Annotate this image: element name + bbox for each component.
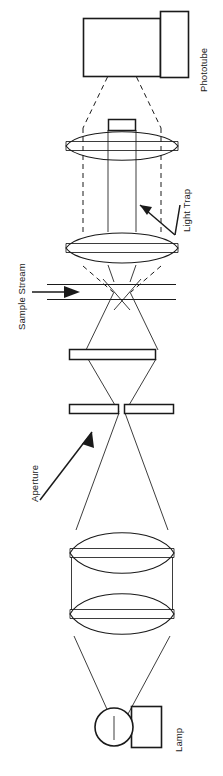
light-trap-annotation	[140, 205, 180, 235]
collection-cone	[83, 265, 161, 292]
condenser-lens-upper	[70, 533, 174, 574]
label-aperture: Aperture	[29, 465, 40, 502]
label-phototube: Phototube	[198, 48, 209, 92]
sample-stream-annotation	[32, 286, 80, 298]
light-trap-leader-tail	[175, 205, 180, 235]
aperture-bar-right	[125, 405, 174, 414]
lens-glass-cond-lower	[70, 594, 174, 635]
light-trap-block	[109, 120, 136, 131]
phototube-base	[161, 12, 189, 78]
aperture-stop	[70, 405, 174, 414]
illumination-beam	[86, 279, 158, 350]
label-lamp: Lamp	[173, 728, 184, 752]
optics-svg: Phototube Light Trap Sample Stream Apert…	[0, 0, 223, 776]
beam-to-condenser	[76, 413, 168, 530]
lens-glass-cond-upper	[70, 533, 174, 574]
field-stop	[70, 350, 156, 360]
label-sample-stream: Sample Stream	[16, 263, 27, 330]
collection-lens-lower	[66, 233, 178, 263]
field-stop-bar	[70, 350, 156, 360]
sample-stream-arrowhead	[64, 286, 80, 298]
lens-glass-lower	[66, 233, 178, 263]
aperture-annotation	[40, 432, 94, 500]
aperture-arrowhead	[82, 432, 94, 448]
lamp-base	[132, 707, 162, 748]
condenser-lens-lower	[70, 594, 174, 635]
aperture-bar-left	[70, 405, 119, 414]
phototube-assembly	[84, 12, 189, 78]
phototube-housing	[84, 19, 161, 77]
optical-diagram: Phototube Light Trap Sample Stream Apert…	[0, 0, 223, 776]
label-light-trap: Light Trap	[181, 189, 192, 232]
